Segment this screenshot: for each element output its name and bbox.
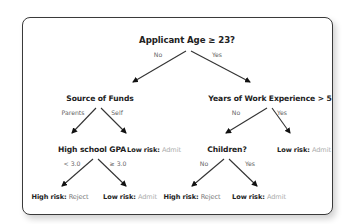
decision-label: Admit [267,193,286,201]
edge-label-root-no: No [154,52,162,58]
risk-label: Low risk: [127,146,160,154]
edge-label-gpa-high: ≥ 3.0 [110,161,127,167]
edge-label-parents: Parents [61,110,84,116]
edge-label-root-yes: Yes [212,52,222,58]
leaf-children-yes: Low risk: Admit [232,194,286,201]
decision-label: Admit [138,193,157,201]
edge-label-children-yes: Yes [245,161,255,167]
decision-label: Reject [201,193,221,201]
edge-label-self: Self [111,110,123,116]
gpa-node: High school GPA [58,146,126,154]
leaf-children-no: High risk: Reject [164,194,221,201]
edge-label-gpa-low: < 3.0 [64,161,81,167]
risk-label: Low risk: [232,193,265,201]
risk-label: High risk: [32,193,67,201]
decision-label: Admit [312,146,331,154]
leaf-gpa-low: High risk: Reject [32,194,89,201]
children-node: Children? [207,146,246,154]
source-of-funds-node: Source of Funds [66,95,133,103]
risk-label: High risk: [164,193,199,201]
leaf-self: Low risk: Admit [127,147,181,154]
root-question: Applicant Age ≥ 23? [139,36,235,45]
edge-label-children-no: No [200,161,208,167]
decision-label: Reject [69,193,89,201]
tree-edges [0,0,346,224]
leaf-exp-yes: Low risk: Admit [277,147,331,154]
work-experience-node: Years of Work Experience > 5 [208,95,331,103]
edge-label-exp-no: No [232,110,240,116]
decision-label: Admit [162,146,181,154]
leaf-gpa-high: Low risk: Admit [103,194,157,201]
edge-label-exp-yes: Yes [277,110,287,116]
risk-label: Low risk: [103,193,136,201]
risk-label: Low risk: [277,146,310,154]
